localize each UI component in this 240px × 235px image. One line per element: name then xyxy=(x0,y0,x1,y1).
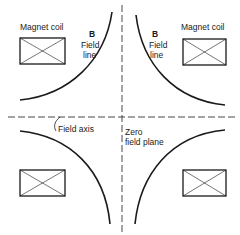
magnet-coil-top-right xyxy=(183,39,226,65)
field-line-label-left-2: line xyxy=(83,50,96,60)
field-line-label-left-1: Field xyxy=(81,40,99,50)
magnet-coil-label-left: Magnet coil xyxy=(20,22,63,32)
field-line-label-right-2: line xyxy=(150,50,163,60)
magnet-coil-top-left xyxy=(20,38,65,64)
field-axis-label: Field axis xyxy=(58,124,94,134)
zero-plane-label-2: field plane xyxy=(125,137,164,147)
zero-plane-label-1: Zero xyxy=(125,127,142,137)
b-label-left: B xyxy=(89,29,95,39)
magnet-coil-label-right: Magnet coil xyxy=(181,22,224,32)
b-label-right: B xyxy=(152,29,158,39)
quadrupole-diagram xyxy=(0,0,240,235)
magnet-coil-bottom-right xyxy=(183,170,226,196)
magnet-coil-bottom-left xyxy=(20,170,65,196)
field-line-label-right-1: Field xyxy=(149,40,167,50)
